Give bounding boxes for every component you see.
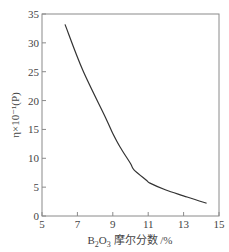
y-tick-label: 30 (28, 37, 40, 49)
y-tick-label: 15 (28, 123, 40, 135)
x-tick-label: 5 (39, 218, 45, 230)
x-tick-label: 11 (143, 218, 154, 230)
y-axis-ticks: 05101520253035 (28, 8, 46, 222)
y-tick-label: 25 (28, 66, 40, 78)
data-curve (65, 24, 207, 203)
x-tick-label: 9 (110, 218, 116, 230)
y-axis-title: η×10⁻¹(P) (9, 92, 22, 138)
y-tick-label: 5 (34, 181, 40, 193)
viscosity-chart: 05101520253035 579111315 η×10⁻¹(P) B2O3 … (0, 0, 229, 252)
x-axis-ticks: 579111315 (39, 212, 225, 230)
x-axis-title: B2O3 摩尔分数 /% (87, 233, 172, 249)
x-tick-label: 15 (214, 218, 226, 230)
y-tick-label: 20 (28, 95, 40, 107)
x-tick-label: 7 (75, 218, 81, 230)
x-tick-label: 13 (178, 218, 190, 230)
y-tick-label: 35 (28, 8, 40, 20)
plot-frame (42, 14, 219, 216)
y-tick-label: 10 (28, 152, 40, 164)
